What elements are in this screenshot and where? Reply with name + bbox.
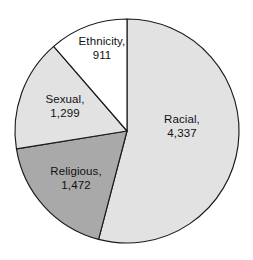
pie-slice-group [15, 19, 239, 243]
pie-chart-figure: Racial,4,337Religious,1,472Sexual,1,299E… [0, 0, 253, 260]
pie-chart-svg [0, 0, 253, 260]
